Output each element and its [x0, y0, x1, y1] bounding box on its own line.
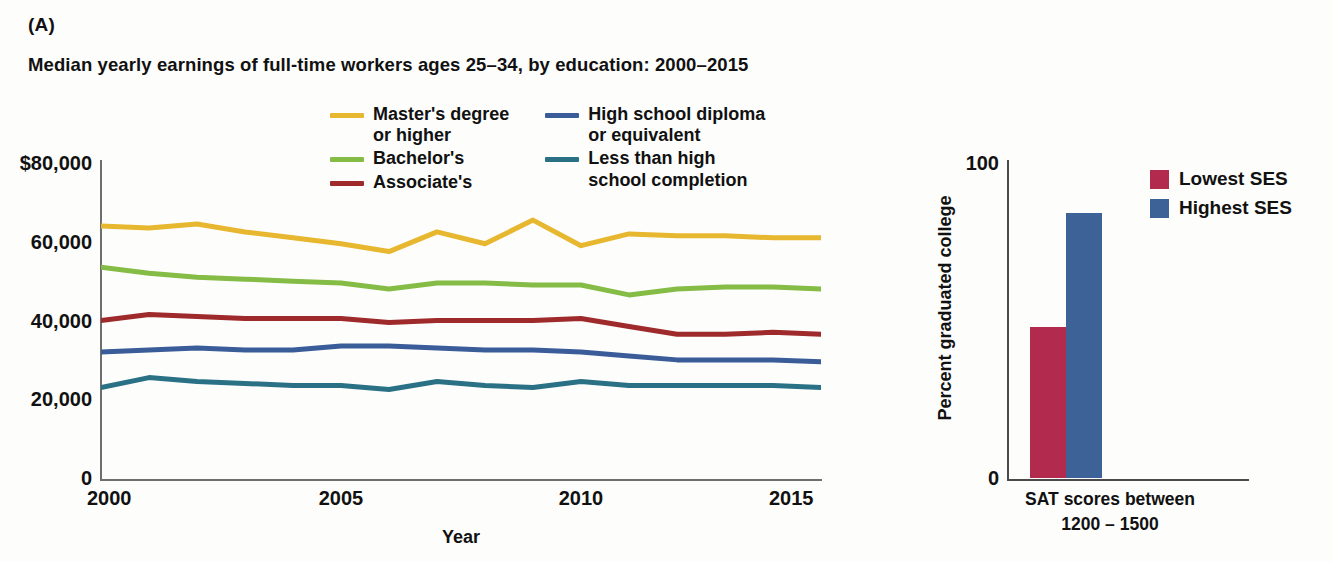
chart-b-legend-label: Highest SES: [1179, 197, 1292, 219]
chart-a-legend-swatch-icon: [545, 157, 579, 162]
chart-a-legend-label: Master's degree or higher: [373, 104, 509, 146]
chart-b-y-tick-labels: 1000: [900, 0, 999, 562]
chart-a-legend-label: High school diploma or equivalent: [588, 104, 765, 146]
chart-b-legend-item[interactable]: Highest SES: [1150, 197, 1292, 219]
chart-a-legend-item[interactable]: High school diploma or equivalent: [545, 104, 765, 146]
chart-a-series-line: [101, 346, 821, 362]
panel-a: (A) Median yearly earnings of full-time …: [0, 0, 900, 562]
chart-b-x-axis-title-line1: SAT scores between: [960, 487, 1260, 512]
chart-a-lines: [101, 163, 821, 478]
chart-b-legend-label: Lowest SES: [1179, 168, 1288, 190]
chart-a-y-tick-label: $80,000: [20, 152, 92, 175]
chart-b-x-axis-title: SAT scores between 1200 – 1500: [960, 487, 1260, 538]
chart-b-y-tick-label: 100: [966, 152, 999, 175]
chart-a-legend-item[interactable]: Master's degree or higher: [330, 104, 509, 146]
chart-a-y-tick-label: 40,000: [31, 309, 92, 332]
chart-a-y-tick-label: 60,000: [31, 230, 92, 253]
chart-b-legend-item[interactable]: Lowest SES: [1150, 168, 1292, 190]
chart-a-series-line: [101, 220, 821, 252]
chart-a-legend-swatch-icon: [330, 157, 364, 162]
chart-a-plot-area: [101, 163, 821, 478]
chart-a-x-tick-label: 2000: [87, 487, 132, 510]
chart-b-bar: [1066, 213, 1102, 478]
chart-a-x-tick-label: 2015: [769, 487, 814, 510]
chart-b-legend: Lowest SESHighest SES: [1150, 168, 1292, 219]
chart-a-legend-swatch-icon: [545, 113, 579, 118]
chart-a-y-tick-label: 20,000: [31, 388, 92, 411]
chart-a-y-tick-labels: $80,00060,00040,00020,0000: [0, 0, 92, 562]
chart-b-x-axis-title-line2: 1200 – 1500: [960, 512, 1260, 537]
chart-b-legend-swatch-icon: [1150, 199, 1169, 218]
chart-a-legend-swatch-icon: [330, 113, 364, 118]
chart-a-x-axis-line: [100, 479, 822, 481]
chart-a-series-line: [101, 267, 821, 295]
chart-b-legend-swatch-icon: [1150, 170, 1169, 189]
chart-b-bar: [1030, 327, 1066, 478]
chart-a-title: Median yearly earnings of full-time work…: [28, 54, 748, 76]
panel-b: (B) Percent graduated college 1000 Lowes…: [900, 0, 1333, 562]
chart-a-x-tick-label: 2005: [319, 487, 364, 510]
chart-a-series-line: [101, 378, 821, 390]
chart-b-x-axis-line: [1007, 479, 1249, 481]
chart-a-series-line: [101, 315, 821, 335]
chart-a-x-tick-label: 2010: [559, 487, 604, 510]
chart-a-x-axis-title: Year: [101, 527, 821, 548]
